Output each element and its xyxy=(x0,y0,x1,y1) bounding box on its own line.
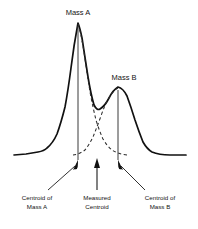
mass-b-component-curve xyxy=(73,88,118,155)
footer-label-centroid-a-line2: Mass A xyxy=(27,203,48,210)
arrowhead-measured-centroid xyxy=(94,158,100,168)
peak-label-mass-a: Mass A xyxy=(66,8,91,17)
footer-label-centroid-b-line1: Centroid of xyxy=(145,194,176,201)
footer-label-centroid-b-line2: Mass B xyxy=(150,203,171,210)
footer-label-measured-line1: Measured xyxy=(83,194,111,201)
leader-line-centroid-a xyxy=(48,166,75,190)
peak-label-mass-b: Mass B xyxy=(111,73,136,82)
footer-label-centroid-a-line1: Centroid of xyxy=(22,194,53,201)
figure-container: Mass A Mass B Centroid of Mass A Measure… xyxy=(0,0,198,229)
footer-label-measured-line2: Centroid xyxy=(85,203,109,210)
peak-overlap-diagram: Mass A Mass B Centroid of Mass A Measure… xyxy=(0,0,198,229)
composite-envelope-curve xyxy=(14,23,186,155)
mass-a-component-curve xyxy=(78,24,127,155)
leader-line-centroid-b xyxy=(121,166,145,190)
